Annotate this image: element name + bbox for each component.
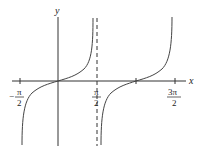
tick-label-neg-half-pi: − π 2 [9, 87, 24, 108]
svg-text:3π: 3π [168, 87, 178, 97]
tangent-chart: y x − π 2 π 2 3π 2 [0, 0, 198, 149]
svg-text:2: 2 [172, 98, 177, 108]
svg-text:π: π [17, 87, 22, 97]
y-axis-label: y [54, 5, 60, 16]
svg-text:2: 2 [94, 98, 99, 108]
tick-label-half-pi: π 2 [92, 87, 101, 108]
svg-text:−: − [9, 91, 14, 101]
svg-text:π: π [94, 87, 99, 97]
x-axis-label: x [188, 75, 194, 86]
svg-text:2: 2 [17, 98, 22, 108]
tick-label-three-half-pi: 3π 2 [167, 87, 181, 108]
